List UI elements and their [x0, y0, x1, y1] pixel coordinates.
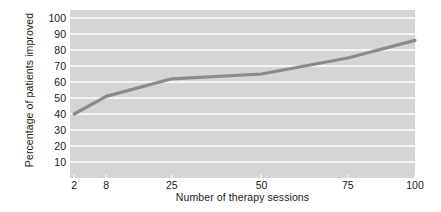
- y-tick-label: 50: [40, 93, 66, 103]
- y-axis-tick-labels: 102030405060708090100: [38, 0, 66, 212]
- y-axis-title: Percentage of patients improved: [23, 0, 35, 180]
- series-polyline: [74, 40, 415, 114]
- data-line-series: [70, 10, 415, 178]
- x-axis-title: Number of therapy sessions: [70, 191, 415, 203]
- y-tick-label: 40: [40, 109, 66, 119]
- x-tick-label: 50: [256, 179, 268, 191]
- y-tick-label: 60: [40, 77, 66, 87]
- x-tick-label: 2: [71, 179, 77, 191]
- x-tick-label: 25: [166, 179, 178, 191]
- y-tick-label: 80: [40, 45, 66, 55]
- x-tick-label: 75: [342, 179, 354, 191]
- y-tick-label: 70: [40, 61, 66, 71]
- x-tick-label: 100: [406, 179, 424, 191]
- chart-figure: 102030405060708090100 28255075100 Percen…: [0, 0, 441, 212]
- x-tick-label: 8: [103, 179, 109, 191]
- y-tick-label: 100: [40, 13, 66, 23]
- y-tick-label: 90: [40, 29, 66, 39]
- y-tick-label: 20: [40, 141, 66, 151]
- y-tick-label: 10: [40, 157, 66, 167]
- y-tick-label: 30: [40, 125, 66, 135]
